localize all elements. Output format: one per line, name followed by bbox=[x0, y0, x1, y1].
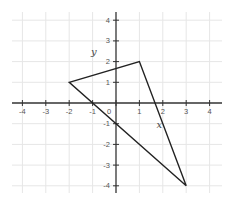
axes bbox=[12, 12, 222, 193]
x-tick-label: 2 bbox=[161, 107, 165, 116]
x-tick-label: 0 bbox=[107, 107, 111, 116]
x-tick-label: 1 bbox=[137, 107, 141, 116]
y-tick-label: 1 bbox=[106, 78, 110, 87]
y-tick-label: -1 bbox=[103, 119, 110, 128]
coordinate-plane: -4-3-2-101234-4-3-2-11234 yx bbox=[0, 0, 232, 199]
x-tick-label: -3 bbox=[42, 107, 49, 116]
y-tick-label: 4 bbox=[106, 16, 110, 25]
x-tick-label: -4 bbox=[19, 107, 26, 116]
variable-label-y: y bbox=[90, 46, 97, 57]
y-tick-label: -2 bbox=[103, 140, 110, 149]
variable-label-x: x bbox=[156, 119, 162, 130]
y-tick-label: -4 bbox=[103, 181, 110, 190]
y-tick-label: 2 bbox=[106, 57, 110, 66]
y-tick-label: -3 bbox=[103, 161, 110, 170]
x-tick-label: 4 bbox=[208, 107, 212, 116]
x-tick-label: 3 bbox=[184, 107, 188, 116]
variable-labels: yx bbox=[90, 46, 163, 129]
x-tick-label: -2 bbox=[66, 107, 73, 116]
x-tick-label: -1 bbox=[89, 107, 96, 116]
y-tick-label: 3 bbox=[106, 36, 110, 45]
